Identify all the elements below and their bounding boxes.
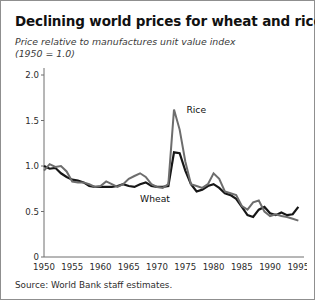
subtitle-line-1: Price relative to manufactures unit valu… <box>15 36 305 48</box>
series-label-wheat: Wheat <box>140 193 170 204</box>
x-tick-label: 1985 <box>231 262 253 272</box>
series-line-wheat <box>44 152 298 217</box>
x-tick-label: 1955 <box>61 262 83 272</box>
y-tick-label: 1.5 <box>25 116 39 126</box>
x-tick-label: 1995 <box>287 262 307 272</box>
y-tick-label: 0.5 <box>25 207 39 217</box>
x-tick-label: 1975 <box>174 262 196 272</box>
x-tick-label: 1950 <box>33 262 55 272</box>
series-label-rice: Rice <box>186 104 206 115</box>
page-title: Declining world prices for wheat and ric… <box>15 14 305 29</box>
figure-subtitle: Price relative to manufactures unit valu… <box>15 36 305 59</box>
line-chart: 00.51.01.52.0 19501955196019651970197519… <box>11 61 307 275</box>
x-tick-label: 1980 <box>203 262 225 272</box>
y-tick-label: 0 <box>34 252 39 262</box>
x-tick-label: 1990 <box>259 262 281 272</box>
x-tick-label: 1960 <box>90 262 112 272</box>
chart-plot-area: 00.51.01.52.0 19501955196019651970197519… <box>11 61 307 275</box>
source-note: Source: World Bank staff estimates. <box>15 280 172 290</box>
figure-inner: Declining world prices for wheat and ric… <box>11 7 305 292</box>
y-axis-tick-labels: 00.51.01.52.0 <box>25 70 44 262</box>
y-tick-label: 1.0 <box>25 161 39 171</box>
x-tick-label: 1970 <box>146 262 168 272</box>
chart-series-group <box>44 110 298 221</box>
y-tick-label: 2.0 <box>25 70 39 80</box>
figure-panel: Declining world prices for wheat and ric… <box>0 0 315 300</box>
subtitle-line-2: (1950 = 1.0) <box>15 48 305 60</box>
x-axis-tick-labels: 1950195519601965197019751980198519901995 <box>33 262 307 272</box>
x-tick-label: 1965 <box>118 262 140 272</box>
